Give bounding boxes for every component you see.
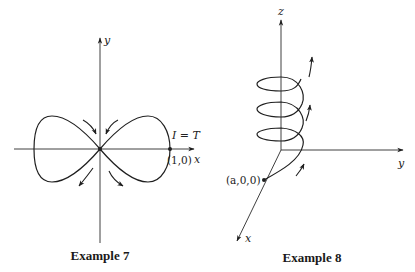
ex8-direction-arrow-top — [309, 57, 312, 77]
ex7-direction-arrow-bottom-left — [79, 168, 93, 186]
ex8-x-axis — [237, 150, 281, 241]
ex8-start-point — [262, 178, 266, 182]
ex8-helix-curve — [257, 77, 303, 180]
example-8-figure: z y x (a,0,0) Example 8 — [226, 5, 405, 265]
ex7-direction-arrow-top-left — [83, 120, 96, 134]
ex8-direction-arrow-middle — [306, 105, 310, 121]
ex7-point-label: (1,0) — [167, 154, 192, 166]
example-7-figure: y x I = T (1,0) Example 7 — [14, 34, 202, 263]
ex7-origin-point — [98, 147, 102, 151]
ex8-x-axis-label: x — [245, 232, 252, 245]
ex7-caption: Example 7 — [71, 248, 130, 263]
ex7-y-axis-label: y — [103, 34, 111, 47]
ex8-caption: Example 8 — [283, 250, 342, 265]
ex7-direction-arrow-bottom-right — [109, 171, 123, 186]
ex7-annotation-i-equals-t: I = T — [171, 129, 202, 142]
ex7-point-1-0 — [168, 147, 172, 151]
ex8-z-axis-label: z — [277, 5, 284, 18]
ex8-direction-arrow-bottom — [296, 164, 304, 176]
ex8-y-axis-label: y — [397, 157, 405, 170]
ex7-x-axis-label: x — [194, 153, 201, 166]
ex8-point-label: (a,0,0) — [226, 174, 261, 186]
